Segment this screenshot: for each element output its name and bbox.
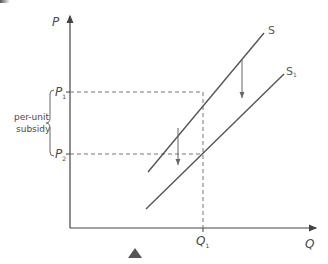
price-label-p2: P2	[55, 147, 66, 162]
subsidy-annotation-line1: per-unit	[14, 112, 50, 122]
subsidy-annotation-line2: subsidy	[16, 124, 51, 134]
supply-curve-s1	[146, 74, 284, 209]
curve-label-s: S	[268, 24, 275, 37]
supply-subsidy-diagram: P Q S S1 P1 P2 Q1 per-unit subsidy	[0, 0, 328, 264]
quantity-label-q1: Q1	[196, 234, 209, 249]
x-axis-label: Q	[305, 237, 314, 251]
curve-label-s1: S1	[286, 65, 297, 78]
price-label-p1: P1	[55, 85, 66, 100]
y-axis-label: P	[52, 15, 60, 29]
triangle-marker-icon[interactable]	[128, 248, 142, 258]
subsidy-brace	[46, 90, 54, 156]
